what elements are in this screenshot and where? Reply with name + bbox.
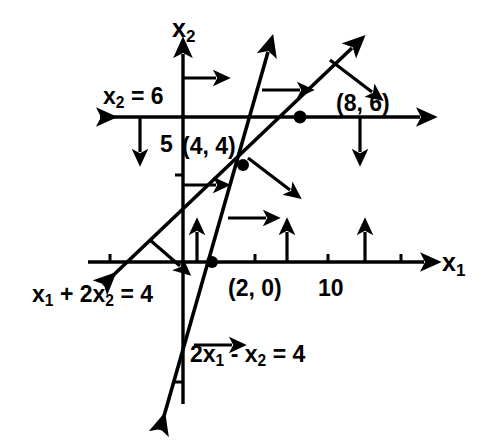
diagram-canvas xyxy=(0,0,493,447)
point-marker-8-6 xyxy=(294,111,307,124)
constraint-arrow-sum-mid xyxy=(248,158,290,190)
y-axis-label: x2 xyxy=(172,16,195,45)
x-tick-label-10: 10 xyxy=(318,277,344,300)
line-label-x1-plus-2x2: x1 + 2x2 = 4 xyxy=(32,283,153,309)
line-2x1-minus-x2-equals-4 xyxy=(160,52,300,430)
x-axis xyxy=(88,254,424,262)
line-label-x2-equals-6: x2 = 6 xyxy=(103,85,164,111)
point-marker-4-4 xyxy=(237,159,249,171)
x-axis-label: x1 xyxy=(442,250,465,279)
point-marker-2-0 xyxy=(206,256,218,268)
constraint-arrow-sum-upper xyxy=(330,60,372,92)
line-label-2x1-minus-x2: 2x1 - x2 = 4 xyxy=(190,343,305,369)
point-label-4-4: (4, 4) xyxy=(182,135,236,158)
point-label-8-6: (8, 6) xyxy=(336,92,390,115)
line-steep-stroke xyxy=(160,52,268,430)
y-tick-label-5: 5 xyxy=(160,133,173,156)
constraint-diagram: x2 x1 x2 = 6 5 10 (4, 4) (8, 6) (2, 0) x… xyxy=(0,0,493,447)
point-label-2-0: (2, 0) xyxy=(228,277,282,300)
